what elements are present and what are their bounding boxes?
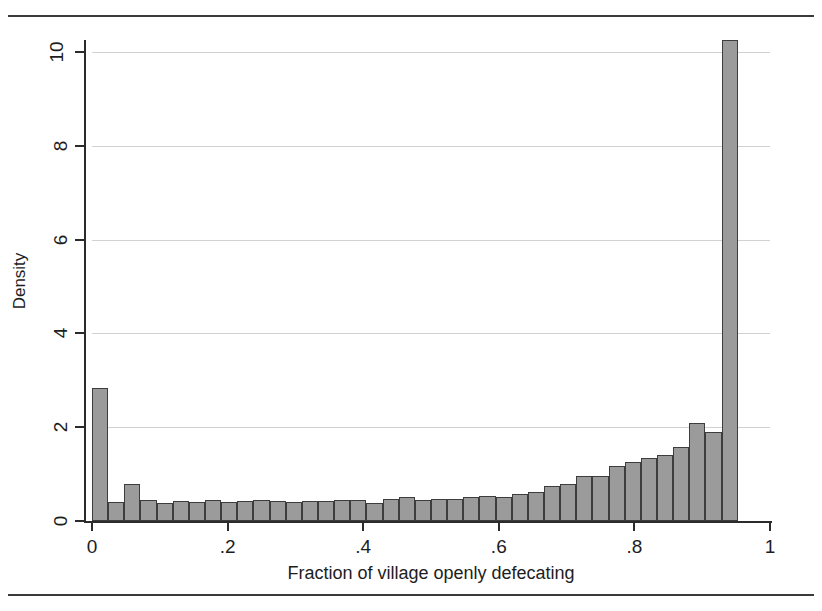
histogram-bar — [366, 503, 382, 521]
histogram-bar — [383, 499, 399, 522]
histogram-bar — [237, 501, 253, 521]
y-tick-label: 10 — [41, 42, 67, 62]
histogram-bar — [641, 458, 657, 521]
plot-area — [92, 40, 770, 521]
histogram-bar — [479, 496, 495, 521]
histogram-bar — [350, 500, 366, 521]
histogram-bar — [722, 40, 738, 521]
histogram-bar — [657, 455, 673, 521]
histogram-bar — [689, 423, 705, 521]
histogram-bar — [512, 494, 528, 521]
histogram-bar — [302, 501, 318, 521]
y-axis-line — [84, 40, 86, 523]
y-axis-title: Density — [8, 0, 32, 561]
histogram-bar — [318, 501, 334, 521]
y-tick-label: 2 — [41, 417, 67, 437]
histogram-bar — [415, 500, 431, 521]
histogram-bar — [286, 502, 302, 521]
histogram-bar — [463, 497, 479, 521]
y-tick — [75, 426, 84, 428]
histogram-bar — [705, 432, 721, 521]
y-tick-label-text: 0 — [51, 516, 73, 527]
y-tick — [75, 145, 84, 147]
histogram-bar — [609, 466, 625, 521]
bottom-horizontal-rule — [8, 594, 814, 596]
histogram-bar — [189, 502, 205, 521]
y-tick-label: 6 — [41, 230, 67, 250]
x-tick-label: .8 — [626, 536, 642, 558]
y-tick-label-text: 8 — [51, 141, 73, 152]
y-tick — [75, 51, 84, 53]
histogram-bar — [173, 501, 189, 521]
histogram-bar — [496, 497, 512, 521]
histogram-bar — [253, 500, 269, 521]
y-tick — [75, 239, 84, 241]
y-tick-label: 0 — [41, 511, 67, 531]
histogram-bar — [592, 476, 608, 521]
x-tick-label: .6 — [491, 536, 507, 558]
x-axis-line — [84, 521, 772, 523]
histogram-figure: Density 0246810 0.2.4.6.81 Fraction of v… — [0, 0, 822, 611]
top-horizontal-rule — [8, 15, 814, 17]
y-tick-label-text: 4 — [51, 328, 73, 339]
x-tick-label: 0 — [87, 536, 98, 558]
histogram-bar — [221, 502, 237, 521]
y-tick-label: 4 — [41, 323, 67, 343]
histogram-bar — [544, 486, 560, 521]
x-tick-label: 1 — [765, 536, 776, 558]
histogram-bar — [673, 447, 689, 521]
histogram-bar — [334, 500, 350, 521]
histogram-bar — [124, 484, 140, 521]
y-tick — [75, 332, 84, 334]
histogram-bar — [528, 492, 544, 521]
histogram-bar — [108, 502, 124, 521]
y-tick-label-text: 6 — [51, 234, 73, 245]
y-tick-label-text: 10 — [45, 41, 67, 62]
histogram-bar — [431, 499, 447, 521]
histogram-bar — [270, 501, 286, 521]
y-axis-title-text: Density — [10, 252, 30, 309]
histogram-bar — [92, 388, 108, 521]
x-tick-label: .4 — [355, 536, 371, 558]
y-tick — [75, 520, 84, 522]
histogram-bar — [576, 476, 592, 521]
histogram-bar — [205, 500, 221, 521]
histogram-bar — [399, 497, 415, 521]
histogram-bar — [447, 499, 463, 522]
x-axis-title: Fraction of village openly defecating — [92, 563, 770, 584]
histogram-bar — [140, 500, 156, 521]
y-tick-label-text: 2 — [51, 422, 73, 433]
histogram-bar — [625, 462, 641, 521]
y-tick-label: 8 — [41, 136, 67, 156]
bars-container — [92, 40, 770, 521]
histogram-bar — [157, 503, 173, 521]
histogram-bar — [560, 484, 576, 521]
x-tick-label: .2 — [220, 536, 236, 558]
